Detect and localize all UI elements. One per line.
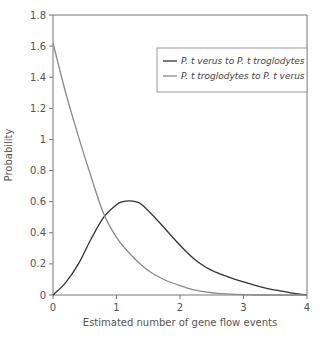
legend-label: P. t troglodytes to P. t verus <box>181 71 305 81</box>
y-tick-label: 1.4 <box>30 72 46 83</box>
legend: P. t verus to P. t troglodytesP. t trogl… <box>157 48 307 92</box>
y-axis-label: Probability <box>3 128 14 181</box>
legend-label: P. t verus to P. t troglodytes <box>181 56 305 66</box>
y-tick-label: 0.2 <box>30 258 46 269</box>
y-tick-label: 0.4 <box>30 227 46 238</box>
y-axis-ticks: 00.20.40.60.811.21.41.61.8 <box>30 10 53 301</box>
y-tick-label: 1.8 <box>30 10 46 21</box>
y-tick-label: 1.2 <box>30 103 46 114</box>
y-tick-label: 1 <box>40 134 46 145</box>
x-tick-label: 2 <box>177 302 183 313</box>
y-tick-label: 0.8 <box>30 165 46 176</box>
x-tick-label: 4 <box>304 302 310 313</box>
x-tick-label: 3 <box>240 302 246 313</box>
x-axis-label: Estimated number of gene flow events <box>83 317 277 328</box>
y-tick-label: 0 <box>40 290 46 301</box>
y-tick-label: 0.6 <box>30 196 46 207</box>
legend-box <box>157 48 307 92</box>
y-tick-label: 1.6 <box>30 41 46 52</box>
series-line-1 <box>53 201 307 295</box>
x-tick-label: 0 <box>50 302 56 313</box>
x-tick-label: 1 <box>113 302 119 313</box>
line-chart: 00.20.40.60.811.21.41.61.8 01234 Probabi… <box>0 0 320 344</box>
x-axis-ticks: 01234 <box>50 295 310 313</box>
